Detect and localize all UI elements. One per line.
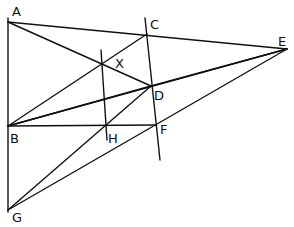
label-F: F — [160, 122, 167, 137]
label-E: E — [278, 34, 286, 49]
line-BC — [8, 34, 147, 126]
line-BF — [8, 125, 156, 126]
label-A: A — [12, 4, 21, 19]
line-segments — [8, 18, 287, 212]
line-GD — [8, 86, 151, 210]
label-D: D — [154, 88, 164, 103]
label-B: B — [10, 131, 19, 146]
line-AD — [8, 22, 151, 86]
label-X: X — [115, 56, 124, 71]
line-DE — [151, 49, 287, 86]
line-GE — [8, 49, 287, 210]
label-G: G — [12, 210, 22, 225]
label-C: C — [150, 17, 159, 32]
label-H: H — [108, 131, 118, 146]
geometry-diagram: A C E X D B H F G — [0, 0, 294, 227]
